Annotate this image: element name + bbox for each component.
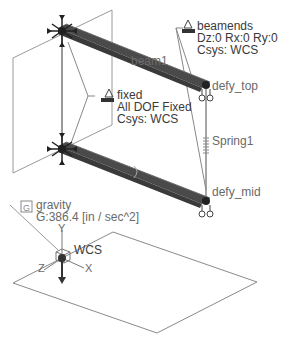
fixed-csys: Csys: WCS [117,113,192,125]
svg-text:G: G [23,203,30,213]
beam-label: beam1 [131,55,168,67]
gravity-value: G:386.4 [in / sec^2] [36,211,139,223]
gravity-arrow-icon [58,254,66,284]
point-label-top: defy_top [212,80,258,92]
beamends-symbol-icon [182,20,195,33]
gravity-load-label: gravity G:386.4 [in / sec^2] [36,199,139,223]
axis-y-label: Y [58,222,65,234]
beamends-constraint-label: beamends Dz:0 Rx:0 Ry:0 Csys: WCS [197,20,278,56]
spring-label: Spring1 [212,135,253,147]
point-label-mid: defy_mid [212,186,261,198]
ground-plane [13,232,257,333]
fixed-constraint-label: fixed All DOF Fixed Csys: WCS [117,89,192,125]
model-viewport[interactable]: G beam1 defy_top defy_mid Spring1 beamen… [0,0,294,341]
fixed-constraint-top-icon [47,15,77,47]
csys-label: WCS [74,244,102,256]
axis-x-label: X [85,262,92,274]
beamends-csys: Csys: WCS [197,44,278,56]
axis-z-label: Z [38,262,45,274]
